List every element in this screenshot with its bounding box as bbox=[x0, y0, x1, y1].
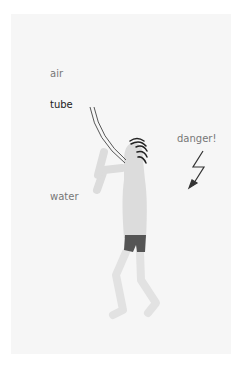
legs-icon bbox=[113, 252, 156, 315]
diagram-canvas: air tube danger! water bbox=[0, 0, 237, 370]
danger-label: danger! bbox=[177, 133, 216, 145]
torso-icon bbox=[123, 142, 147, 238]
tube-label: tube bbox=[50, 99, 73, 111]
snorkel-figure bbox=[0, 0, 237, 370]
lightning-arrow-icon bbox=[189, 151, 204, 188]
water-label: water bbox=[50, 191, 79, 203]
shorts-icon bbox=[124, 235, 146, 252]
air-label: air bbox=[50, 68, 63, 80]
tube-icon bbox=[90, 107, 126, 163]
